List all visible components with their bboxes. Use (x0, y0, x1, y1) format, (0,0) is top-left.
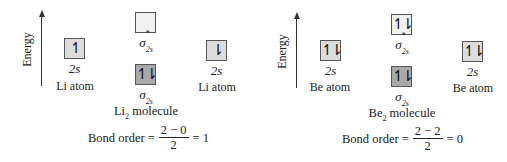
be2-sigma-2s-label: σ2s (386, 89, 418, 106)
li-left-2s-label: 2s (64, 61, 85, 77)
energy-arrow-icon (294, 12, 300, 19)
energy-axis-label: Energy (20, 20, 35, 80)
be2-sigma-2s-box: ↿⇂ (391, 66, 412, 87)
li-left-2s-orbital-box: ↿ (64, 38, 85, 59)
energy-axis-label: Energy (275, 22, 290, 82)
be-right-2s-orbital-box: ↿⇂ (462, 41, 483, 62)
li2-sigma-2s-box: ↿⇂ (135, 64, 156, 85)
li2-sigma-star-2s-label: σ*2s (130, 35, 162, 52)
be2-bond-order-fraction: 2 − 2 2 (413, 125, 443, 153)
li-right-2s-orbital-box: ⇂ (206, 40, 227, 61)
energy-axis (296, 18, 297, 88)
li-right-2s-label: 2s (206, 63, 227, 79)
be-left-2s-label: 2s (320, 63, 341, 79)
li2-sigma-2s-label: σ2s (130, 87, 162, 104)
li2-molecule-label: Li2 molecule (96, 104, 196, 121)
be-right-atom-label: Be atom (443, 81, 503, 96)
energy-axis (41, 16, 42, 86)
be-left-atom-label: Be atom (300, 80, 360, 95)
energy-arrow-icon (39, 10, 45, 17)
li-right-atom-label: Li atom (187, 80, 247, 95)
be-right-2s-label: 2s (462, 64, 483, 80)
be2-molecule-label: Be2 molecule (352, 106, 452, 123)
be-left-2s-orbital-box: ↿⇂ (320, 40, 341, 61)
li2-bond-order-fraction: 2 − 0 2 (159, 124, 189, 152)
li2-bond-order: Bond order = 2 − 0 2 = 1 (88, 124, 209, 152)
be2-sigma-star-2s-label: σ*2s (386, 37, 418, 54)
li-left-atom-label: Li atom (45, 79, 105, 94)
be2-bond-order: Bond order = 2 − 2 2 = 0 (342, 125, 463, 153)
